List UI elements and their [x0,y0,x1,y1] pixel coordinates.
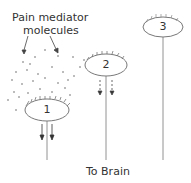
to-brain-label: To Brain [86,166,130,178]
neuron-3-label: 3 [153,21,173,33]
neuron-3 [143,14,183,160]
mediator-label-line1: Pain mediator [12,12,88,24]
label-arrows [22,36,58,54]
mediator-label-line2: molecules [23,25,79,37]
neuron-2-label: 2 [96,59,116,71]
mediator-dots [7,49,85,111]
neuron-1-label: 1 [37,104,57,116]
